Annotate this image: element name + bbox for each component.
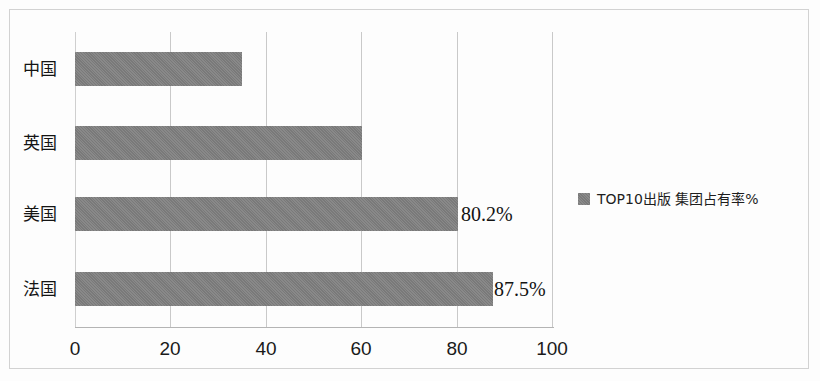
category-label-france: 法国 xyxy=(12,279,68,299)
xtick-label-40: 40 xyxy=(236,338,296,360)
bar-france[interactable] xyxy=(75,272,493,306)
value-label-usa: 80.2% xyxy=(461,203,513,225)
value-label-france: 87.5% xyxy=(494,278,546,300)
bar-uk[interactable] xyxy=(75,126,362,160)
bar-chart-figure: 中国 英国 美国 法国 80.2% 87.5% 0 20 40 60 80 10… xyxy=(0,0,820,381)
chart-legend: TOP10出版 集团占有率% xyxy=(578,190,759,208)
xtick-label-80: 80 xyxy=(427,338,487,360)
bar-usa[interactable] xyxy=(75,197,458,231)
plot-area xyxy=(75,32,553,328)
bar-china[interactable] xyxy=(75,52,242,86)
xtick-label-0: 0 xyxy=(45,338,105,360)
x-axis-line xyxy=(75,327,554,328)
category-label-usa: 美国 xyxy=(12,204,68,224)
legend-swatch-icon xyxy=(578,193,590,205)
category-label-uk: 英国 xyxy=(12,133,68,153)
xtick-label-100: 100 xyxy=(522,338,582,360)
xtick-label-20: 20 xyxy=(140,338,200,360)
xtick-label-60: 60 xyxy=(331,338,391,360)
category-label-china: 中国 xyxy=(12,59,68,79)
gridline-100 xyxy=(552,32,553,328)
legend-label: TOP10出版 集团占有率% xyxy=(597,190,759,208)
